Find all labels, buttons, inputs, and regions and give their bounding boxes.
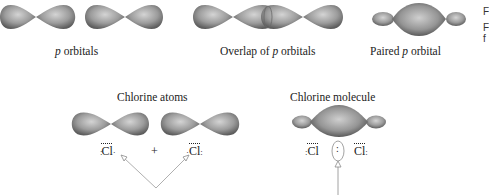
title-chlorine-molecule: Chlorine molecule xyxy=(290,91,375,103)
orbital-diagram xyxy=(0,0,489,195)
side-text-1: F xyxy=(483,6,489,17)
label-p-orbitals-text: orbitals xyxy=(61,45,98,57)
label-paired-prefix: Paired xyxy=(370,45,402,57)
cl-symbol: Cl xyxy=(308,144,319,158)
label-p-orbitals: p orbitals xyxy=(55,45,98,57)
lone-pair-dots: : xyxy=(200,147,203,157)
lewis-molecule-cl-right: Cl: xyxy=(354,144,368,159)
p-orbital-left xyxy=(0,5,75,29)
cl-symbol: Cl xyxy=(189,144,200,158)
side-text-2: F xyxy=(483,22,489,33)
title-chlorine-atoms: Chlorine atoms xyxy=(117,91,188,103)
label-paired: Paired p orbital xyxy=(370,45,441,57)
unpaired-electron-arrows xyxy=(121,155,189,188)
label-overlap-suffix: orbitals xyxy=(278,45,315,57)
lewis-cl-right: ·Cl: xyxy=(186,144,203,159)
unpaired-dot: · xyxy=(113,147,116,157)
lewis-cl-left: :Cl· xyxy=(100,144,116,159)
shared-electron-pair: : xyxy=(336,143,339,154)
lewis-molecule-cl-left: :Cl xyxy=(305,144,319,159)
cl-symbol: Cl xyxy=(102,144,113,158)
side-text-3: f xyxy=(483,33,486,44)
label-overlap-prefix: Overlap of xyxy=(220,45,272,57)
cl-symbol: Cl xyxy=(354,144,365,158)
overlap-orbitals xyxy=(193,5,343,29)
paired-p-orbital xyxy=(372,3,466,36)
chlorine-atom-orbital-left xyxy=(72,113,149,136)
chlorine-molecule-orbital xyxy=(292,105,386,137)
chlorine-atom-orbital-right xyxy=(161,113,239,136)
p-orbital-right xyxy=(85,5,163,29)
plus-sign: + xyxy=(151,144,158,159)
label-overlap: Overlap of p orbitals xyxy=(220,45,316,57)
lone-pair-dots: : xyxy=(365,147,368,157)
label-paired-suffix: orbital xyxy=(408,45,441,57)
